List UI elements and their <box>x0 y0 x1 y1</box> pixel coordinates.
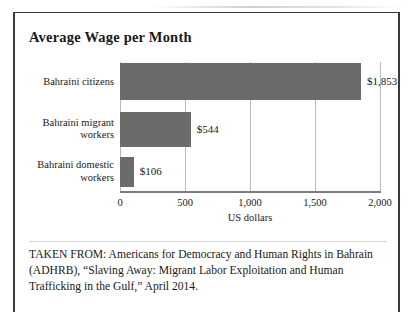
caption-divider <box>29 241 387 242</box>
figure-frame: Average Wage per Month Bahraini citizens… <box>13 12 400 312</box>
bar-value-label: $106 <box>140 165 162 177</box>
scan-artifact <box>150 6 405 8</box>
category-label: Bahraini migrant workers <box>18 117 114 142</box>
bar-value-label: $1,853 <box>367 75 397 87</box>
category-label: Bahraini domestic workers <box>18 159 114 184</box>
bar <box>120 112 191 147</box>
x-axis-line <box>120 191 381 193</box>
bar <box>120 63 361 100</box>
category-axis-labels: Bahraini citizensBahraini migrant worker… <box>15 62 114 202</box>
plot-area: $1,853$544$106 <box>120 62 380 191</box>
category-label: Bahraini citizens <box>18 76 114 89</box>
x-tick-label: 2,000 <box>368 197 392 208</box>
bar-value-label: $544 <box>197 123 219 135</box>
x-tick-label: 1,500 <box>303 197 327 208</box>
x-axis-title: US dollars <box>120 212 380 223</box>
x-tick-label: 0 <box>117 197 122 208</box>
bar <box>120 157 134 187</box>
figure-caption: TAKEN FROM: Americans for Democracy and … <box>29 247 381 296</box>
x-tick-label: 500 <box>177 197 193 208</box>
x-axis-tick-labels: 05001,0001,5002,000 <box>120 197 380 211</box>
x-tick-label: 1,000 <box>238 197 262 208</box>
bar-chart: Bahraini citizensBahraini migrant worker… <box>15 13 402 228</box>
